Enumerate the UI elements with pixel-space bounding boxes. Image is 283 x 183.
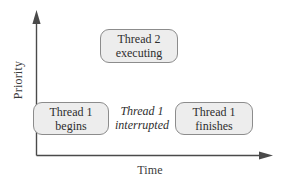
annotation-thread1-interrupted-line1: Thread 1 <box>120 104 163 118</box>
axes-group <box>0 0 283 183</box>
thread-priority-timeline-diagram: Priority Time Thread 2 executing Thread … <box>0 0 283 183</box>
x-axis-arrowhead-icon <box>259 151 273 159</box>
node-thread1-begins-line2: begins <box>55 119 86 133</box>
node-thread1-begins-line1: Thread 1 <box>50 105 93 119</box>
annotation-thread1-interrupted: Thread 1 interrupted <box>115 104 169 132</box>
x-axis-label: Time <box>137 163 163 178</box>
node-thread1-finishes-line1: Thread 1 <box>193 105 236 119</box>
node-thread1-finishes-line2: finishes <box>195 119 232 133</box>
y-axis-label: Priority <box>11 61 26 99</box>
annotation-thread1-interrupted-line2: interrupted <box>115 118 169 132</box>
node-thread2-executing: Thread 2 executing <box>100 29 178 63</box>
y-axis-arrowhead-icon <box>32 10 40 24</box>
node-thread2-line1: Thread 2 <box>118 32 161 46</box>
node-thread1-begins: Thread 1 begins <box>33 102 109 135</box>
node-thread2-line2: executing <box>116 46 163 60</box>
node-thread1-finishes: Thread 1 finishes <box>175 102 253 135</box>
